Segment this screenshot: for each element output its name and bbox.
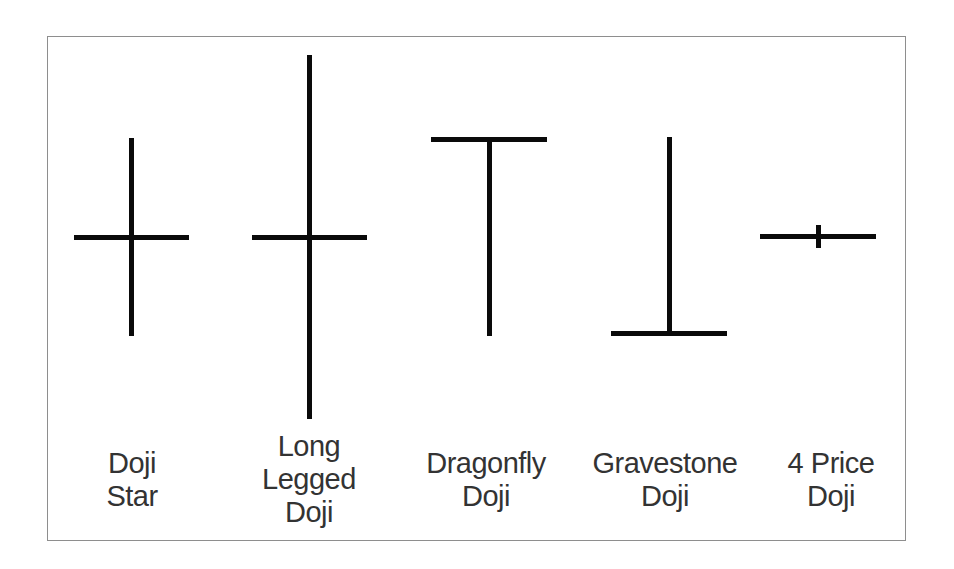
four-price-doji-label: 4 Price Doji <box>731 447 931 513</box>
label-line: Dragonfly <box>386 447 586 480</box>
four-price-doji-tick <box>816 225 821 248</box>
label-line: 4 Price <box>731 447 931 480</box>
gravestone-doji-body <box>611 331 727 336</box>
label-line: Star <box>32 480 232 513</box>
label-line: Doji <box>731 480 931 513</box>
label-line: Doji <box>386 480 586 513</box>
long-legged-doji-label: Long Legged Doji <box>209 430 409 529</box>
dragonfly-doji-label: Dragonfly Doji <box>386 447 586 513</box>
dragonfly-doji-wick <box>487 140 492 336</box>
long-legged-doji-body <box>252 235 367 240</box>
doji-star-label: Doji Star <box>32 447 232 513</box>
label-line: Legged <box>209 463 409 496</box>
gravestone-doji-wick <box>667 137 672 333</box>
label-line: Doji <box>32 447 232 480</box>
doji-star-body <box>74 235 189 240</box>
label-line: Doji <box>209 496 409 529</box>
label-line: Long <box>209 430 409 463</box>
